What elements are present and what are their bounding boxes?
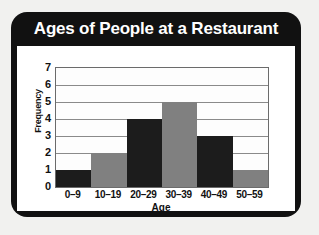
x-axis-label: Age xyxy=(55,202,267,213)
plot-area xyxy=(55,67,269,188)
y-axis-tick-label: 0 xyxy=(37,181,51,192)
chart-title-bar: Ages of People at a Restaurant xyxy=(11,12,301,46)
x-axis-tick-label: 0–9 xyxy=(55,189,90,200)
y-axis-tick-label: 1 xyxy=(37,164,51,175)
x-axis-ticks: 0–910–1920–2930–3940–4950–59 xyxy=(55,189,267,203)
x-axis-tick-label: 20–29 xyxy=(126,189,161,200)
y-axis-tick-label: 4 xyxy=(37,113,51,124)
y-axis-tick-label: 2 xyxy=(37,147,51,158)
bar xyxy=(56,170,91,187)
x-axis-tick-label: 40–49 xyxy=(196,189,231,200)
gridline xyxy=(56,85,268,86)
x-axis-tick-label: 30–39 xyxy=(161,189,196,200)
y-axis-tick-label: 3 xyxy=(37,130,51,141)
bar xyxy=(197,136,232,187)
bar xyxy=(127,119,162,187)
bar-chart: Frequency 01234567 0–910–1920–2930–3940–… xyxy=(17,46,295,211)
bar xyxy=(233,170,268,187)
y-axis-tick-label: 6 xyxy=(37,79,51,90)
y-axis-tick-label: 7 xyxy=(37,62,51,73)
page-title: Ages of People at a Restaurant xyxy=(34,19,278,39)
chart-plot-card: Frequency 01234567 0–910–1920–2930–3940–… xyxy=(17,46,295,211)
bar xyxy=(91,153,126,187)
y-axis-tick-label: 5 xyxy=(37,96,51,107)
y-axis-ticks: 01234567 xyxy=(37,67,51,186)
chart-card: Ages of People at a Restaurant Frequency… xyxy=(11,12,301,217)
x-axis-tick-label: 50–59 xyxy=(232,189,267,200)
bar xyxy=(162,102,197,187)
x-axis-tick-label: 10–19 xyxy=(90,189,125,200)
